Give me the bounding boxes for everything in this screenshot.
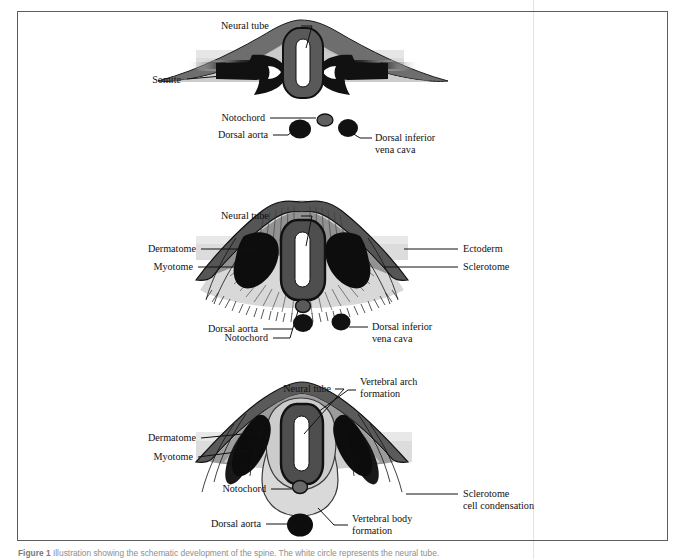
label-dorsal-aorta-middle: Dorsal aorta (208, 323, 259, 334)
label-sclerotome-cc-bottom-line2: cell condensation (463, 500, 534, 511)
label-dermatome-bottom: Dermatome (148, 432, 197, 443)
label-notochord-top: Notochord (221, 112, 265, 123)
label-vertebral-body-bottom-line2: formation (352, 525, 392, 536)
panel-top: Neural tube Somite Notochord Dorsal aort… (152, 20, 448, 155)
label-somite-top: Somite (152, 74, 181, 85)
label-neural-tube-middle: Neural tube (221, 210, 269, 221)
label-vertebral-arch-bottom-line2: formation (360, 388, 400, 399)
notochord-top (317, 114, 333, 126)
label-neural-tube-top: Neural tube (221, 20, 269, 31)
neural-canal-bottom (294, 416, 309, 471)
label-dorsal-ivc-top-line1: Dorsal inferior (375, 132, 436, 143)
somite-mass-left-stem (216, 62, 266, 80)
caption-number: 1 (46, 548, 51, 558)
label-myotome-bottom: Myotome (153, 451, 193, 462)
label-dorsal-ivc-top-line2: vena cava (375, 144, 416, 155)
label-neural-tube-bottom: Neural tube (283, 383, 331, 394)
label-sclerotome-cc-bottom-line1: Sclerotome (463, 488, 510, 499)
label-sclerotome-middle: Sclerotome (463, 261, 510, 272)
label-ectoderm-middle: Ectoderm (463, 243, 503, 254)
label-myotome-middle: Myotome (153, 261, 193, 272)
dorsal-ivc-middle (332, 314, 351, 331)
label-dorsal-ivc-middle-line1: Dorsal inferior (372, 321, 433, 332)
label-dorsal-aorta-bottom: Dorsal aorta (211, 518, 262, 529)
leader-notochord-middle (273, 311, 298, 338)
neural-canal-top (296, 39, 310, 87)
panel-bottom: Neural tube Vertebral arch formation Der… (148, 376, 534, 537)
caption-text: Illustration showing the schematic devel… (53, 548, 439, 558)
label-vertebral-arch-bottom-line1: Vertebral arch (360, 376, 417, 387)
label-vertebral-body-bottom-line1: Vertebral body (352, 513, 413, 524)
dorsal-aorta-bottom (287, 514, 313, 537)
neural-canal-middle (295, 232, 310, 287)
caption-lead: Figure (18, 548, 44, 558)
dorsal-aorta-top (289, 120, 311, 139)
notochord-middle (296, 300, 311, 313)
label-dorsal-aorta-top: Dorsal aorta (218, 129, 269, 140)
notochord-bottom (293, 481, 308, 494)
figure-caption: Figure 1 Illustration showing the schema… (18, 548, 668, 559)
somite-mass-right-stem (338, 62, 388, 80)
spine-development-figure: Neural tube Somite Notochord Dorsal aort… (0, 0, 679, 559)
label-dorsal-ivc-middle-line2: vena cava (372, 333, 413, 344)
label-notochord-bottom: Notochord (222, 483, 266, 494)
panel-middle: Neural tube Dermatome Myotome Ectoderm S… (148, 200, 510, 344)
figure-page: Neural tube Somite Notochord Dorsal aort… (0, 0, 679, 559)
label-dermatome-middle: Dermatome (148, 243, 197, 254)
